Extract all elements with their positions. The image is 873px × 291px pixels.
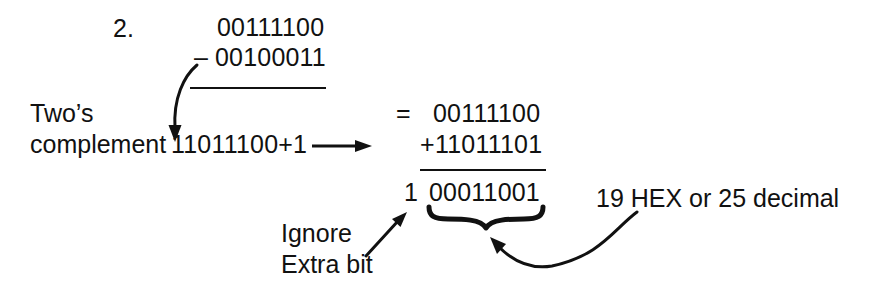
twos-complement-label-line1: Two’s: [30, 101, 93, 126]
curly-brace-icon: [429, 207, 543, 228]
minuend-value: 00111100: [217, 15, 324, 40]
twos-complement-value: 11011100+1: [171, 132, 307, 157]
step-number-label: 2.: [113, 16, 134, 41]
addition-rule: [420, 169, 546, 171]
twos-complement-label-line2: complement: [30, 132, 166, 157]
result-value: 00011001: [429, 180, 540, 205]
addend-top-value: 00111100: [433, 101, 540, 126]
subtrahend-value: 00100011: [215, 45, 326, 70]
result-annotation: 19 HEX or 25 decimal: [596, 186, 839, 211]
addend-bottom-value: 11011101: [435, 132, 542, 157]
equals-sign: =: [396, 101, 411, 126]
worked-example-figure: 2. 00111100 – 00100011 Two’s complement …: [0, 0, 873, 291]
ignore-label-line1: Ignore: [281, 221, 352, 246]
carry-bit-value: 1: [404, 180, 418, 205]
plus-sign: +: [420, 132, 435, 157]
ignore-label-line2: Extra bit: [281, 252, 373, 277]
curved-arrow-left-icon: [490, 212, 637, 267]
straight-arrow-right-icon: [312, 140, 372, 152]
minus-sign: –: [194, 45, 208, 70]
subtraction-rule: [190, 87, 326, 89]
